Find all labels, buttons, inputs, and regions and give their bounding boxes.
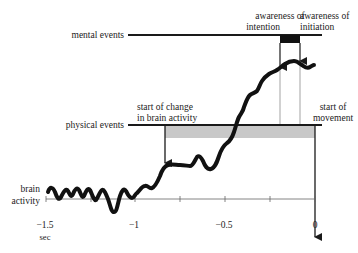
start-change-label-1: start of change bbox=[137, 102, 193, 112]
start-movement-label-1: start of bbox=[320, 102, 347, 112]
brain-activity-label-2: activity bbox=[12, 196, 41, 206]
mental-events-label: mental events bbox=[72, 30, 125, 40]
awareness-initiation-label-1: awareness of bbox=[300, 11, 350, 21]
tick-label-sec: sec bbox=[40, 232, 51, 242]
awareness-intention-label-1: awareness of bbox=[255, 11, 305, 21]
tick-label-zero: 0 bbox=[313, 220, 318, 230]
tick-label-minus-0-5: −0.5 bbox=[215, 220, 232, 230]
awareness-intention-label-2: intention bbox=[246, 22, 280, 32]
brain-activity-label-1: brain bbox=[20, 184, 40, 194]
awareness-initiation-label-2: initiation bbox=[300, 22, 335, 32]
start-movement-label-2: movement bbox=[313, 113, 353, 123]
brain-change-interval-band bbox=[165, 125, 315, 138]
libet-timing-diagram: mental events awareness of intention awa… bbox=[0, 0, 358, 253]
tick-label-minus-1: −1 bbox=[129, 220, 139, 230]
tick-label-minus-1-5: −1.5 bbox=[36, 220, 53, 230]
start-change-label-2: in brain activity bbox=[137, 113, 197, 123]
awareness-interval-box bbox=[280, 35, 300, 43]
physical-events-label: physical events bbox=[66, 120, 125, 130]
